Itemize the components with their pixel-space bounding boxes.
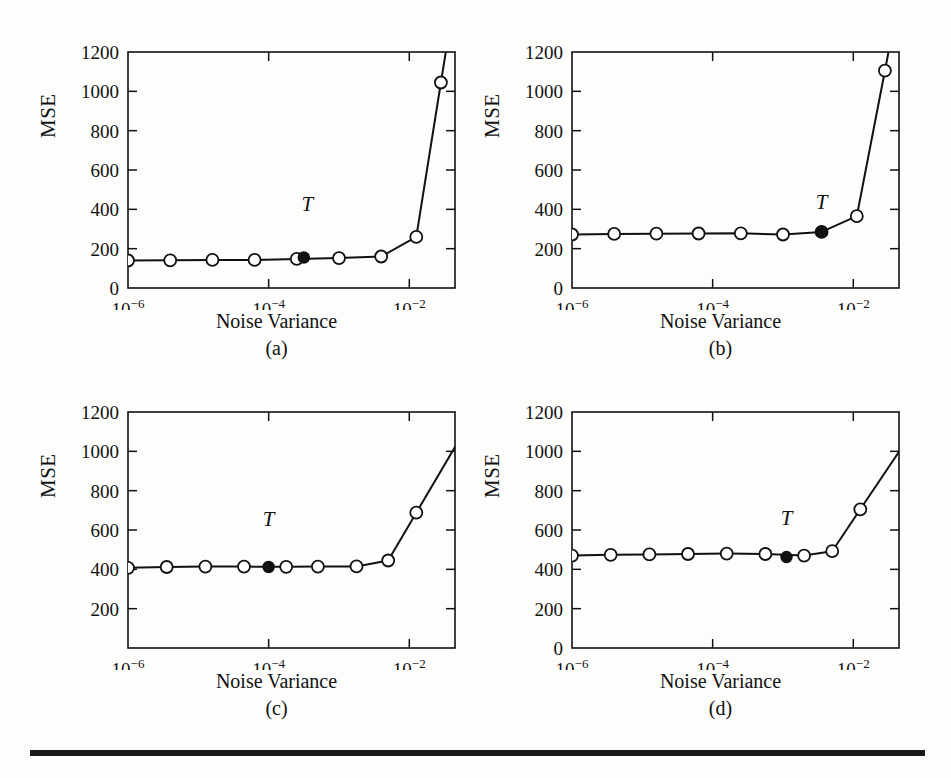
svg-text:400: 400 bbox=[535, 199, 564, 220]
svg-text:10−2: 10−2 bbox=[837, 656, 870, 670]
plot-area-a: 020040060080010001200 10−610−410−2 T bbox=[18, 10, 469, 310]
y-tick-labels-a: 020040060080010001200 bbox=[81, 42, 119, 299]
svg-text:10−2: 10−2 bbox=[393, 296, 426, 310]
svg-text:200: 200 bbox=[535, 239, 564, 260]
x-ticks-b bbox=[713, 52, 854, 288]
x-tick-labels-a: 10−610−410−2 bbox=[112, 296, 426, 310]
svg-text:0: 0 bbox=[110, 278, 120, 299]
x-tick-labels-d: 10−610−410−2 bbox=[556, 656, 870, 670]
svg-text:800: 800 bbox=[535, 481, 564, 502]
svg-text:10−2: 10−2 bbox=[393, 656, 426, 670]
svg-text:T: T bbox=[263, 507, 276, 531]
plot-area-c: 20040060080010001200 10−610−410−2 T bbox=[18, 370, 469, 670]
svg-text:600: 600 bbox=[91, 520, 120, 541]
svg-text:10−2: 10−2 bbox=[837, 296, 870, 310]
svg-text:200: 200 bbox=[535, 599, 564, 620]
svg-text:10−6: 10−6 bbox=[556, 296, 589, 310]
subplot-caption-c: (c) bbox=[18, 697, 469, 720]
y-tick-labels-b: 020040060080010001200 bbox=[525, 42, 563, 299]
plot-area-d: 020040060080010001200 10−610−410−2 T bbox=[462, 370, 913, 670]
svg-text:800: 800 bbox=[91, 481, 120, 502]
svg-text:0: 0 bbox=[554, 638, 564, 659]
svg-text:200: 200 bbox=[91, 599, 120, 620]
svg-text:10−4: 10−4 bbox=[696, 656, 729, 670]
svg-text:1200: 1200 bbox=[81, 42, 119, 63]
svg-text:600: 600 bbox=[91, 160, 120, 181]
svg-text:T: T bbox=[781, 506, 794, 530]
svg-text:1000: 1000 bbox=[81, 441, 119, 462]
x-axis-label-c: Noise Variance bbox=[18, 670, 469, 693]
svg-text:0: 0 bbox=[554, 278, 564, 299]
svg-text:200: 200 bbox=[91, 239, 120, 260]
panel-c: MSE 20040060080010001200 10−610−410−2 T … bbox=[18, 370, 469, 730]
svg-text:600: 600 bbox=[535, 520, 564, 541]
y-tick-labels-c: 20040060080010001200 bbox=[81, 402, 119, 620]
svg-text:600: 600 bbox=[535, 160, 564, 181]
plot-frame-a bbox=[128, 52, 455, 288]
svg-text:800: 800 bbox=[91, 121, 120, 142]
svg-text:1000: 1000 bbox=[525, 441, 563, 462]
x-tick-labels-c: 10−610−410−2 bbox=[112, 656, 426, 670]
svg-text:10−4: 10−4 bbox=[252, 656, 285, 670]
svg-text:1000: 1000 bbox=[525, 81, 563, 102]
subplot-caption-d: (d) bbox=[462, 697, 913, 720]
svg-text:10−4: 10−4 bbox=[696, 296, 729, 310]
svg-text:10−6: 10−6 bbox=[112, 296, 145, 310]
data-series-a bbox=[122, 52, 447, 267]
panel-b: MSE 020040060080010001200 10−610−410−2 T… bbox=[462, 10, 913, 370]
svg-text:1200: 1200 bbox=[525, 402, 563, 423]
svg-text:400: 400 bbox=[535, 559, 564, 580]
svg-text:T: T bbox=[816, 190, 829, 214]
x-axis-label-d: Noise Variance bbox=[462, 670, 913, 693]
plot-area-b: 020040060080010001200 10−610−410−2 T bbox=[462, 10, 913, 310]
y-ticks-a bbox=[128, 91, 455, 248]
y-ticks-b bbox=[572, 91, 899, 248]
svg-text:T: T bbox=[301, 192, 314, 216]
subplot-caption-b: (b) bbox=[462, 337, 913, 360]
y-tick-labels-d: 020040060080010001200 bbox=[525, 402, 563, 659]
svg-text:1200: 1200 bbox=[525, 42, 563, 63]
data-series-b bbox=[566, 52, 891, 241]
panel-d: MSE 020040060080010001200 10−610−410−2 T… bbox=[462, 370, 913, 730]
data-series-c bbox=[122, 412, 469, 574]
plot-frame-d bbox=[572, 412, 899, 648]
page-divider-rule bbox=[30, 750, 925, 756]
t-annotation-b: T bbox=[816, 190, 829, 237]
x-tick-labels-b: 10−610−410−2 bbox=[556, 296, 870, 310]
x-axis-label-b: Noise Variance bbox=[462, 310, 913, 333]
y-ticks-d bbox=[572, 451, 899, 608]
svg-text:800: 800 bbox=[535, 121, 564, 142]
plot-frame-b bbox=[572, 52, 899, 288]
svg-text:400: 400 bbox=[91, 559, 120, 580]
svg-text:1200: 1200 bbox=[81, 402, 119, 423]
t-annotation-c: T bbox=[263, 507, 276, 572]
x-ticks-c bbox=[269, 412, 410, 648]
svg-text:10−6: 10−6 bbox=[556, 656, 589, 670]
panel-a: MSE 020040060080010001200 10−610−410−2 T… bbox=[18, 10, 469, 370]
svg-text:10−4: 10−4 bbox=[252, 296, 285, 310]
x-axis-label-a: Noise Variance bbox=[18, 310, 469, 333]
svg-text:400: 400 bbox=[91, 199, 120, 220]
t-annotation-a: T bbox=[298, 192, 314, 263]
figure-root: MSE 020040060080010001200 10−610−410−2 T… bbox=[0, 0, 951, 778]
svg-text:1000: 1000 bbox=[81, 81, 119, 102]
data-series-d bbox=[566, 412, 913, 562]
svg-text:10−6: 10−6 bbox=[112, 656, 145, 670]
t-annotation-d: T bbox=[781, 506, 794, 562]
subplot-caption-a: (a) bbox=[18, 337, 469, 360]
